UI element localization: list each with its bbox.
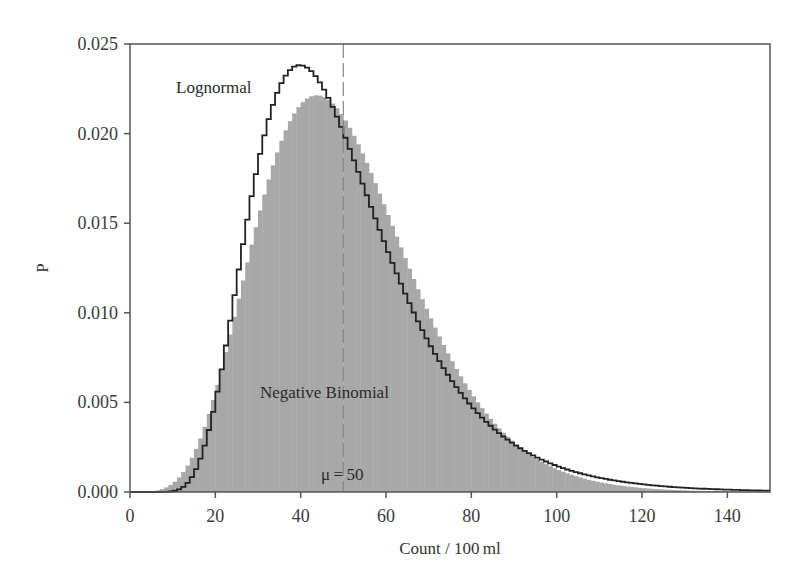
histogram-bar (360, 153, 365, 492)
histogram-bar (505, 437, 510, 492)
x-axis-ticks: 020406080100120140 (126, 492, 741, 526)
histogram-bar (224, 352, 229, 492)
histogram-bar (501, 433, 506, 492)
histogram-bar (275, 152, 280, 492)
histogram-bar (621, 486, 626, 492)
x-tick-label: 40 (292, 506, 310, 526)
histogram-bar (599, 483, 604, 492)
histogram-bar (518, 448, 523, 492)
histogram-bar (629, 487, 634, 492)
histogram-bar (267, 179, 272, 492)
histogram-bar (612, 485, 617, 492)
histogram-bar (254, 227, 259, 492)
histogram-bar (228, 335, 233, 492)
histogram-bar (343, 120, 348, 492)
histogram-bar (258, 210, 263, 492)
histogram-bar (365, 163, 370, 492)
x-tick-label: 60 (377, 506, 395, 526)
histogram-bar (232, 317, 237, 492)
histogram-bar (535, 459, 540, 492)
histogram-bar (322, 97, 327, 492)
histogram-bar (578, 477, 583, 492)
histogram-bar (608, 484, 613, 492)
mu-label: μ = 50 (321, 465, 364, 484)
histogram-bar (369, 173, 374, 492)
x-tick-label: 80 (462, 506, 480, 526)
histogram-bar (582, 479, 587, 492)
histogram-bar (262, 194, 267, 492)
histogram-bar (249, 245, 254, 492)
histogram-bar (313, 95, 318, 492)
histogram-bar (548, 466, 553, 492)
histogram-bar (591, 481, 596, 492)
histogram-bar (595, 482, 600, 492)
histogram-bar (531, 457, 536, 492)
histogram-bar (309, 96, 314, 492)
histogram-bar (574, 476, 579, 492)
histogram-bar (523, 451, 528, 492)
histogram-bar (245, 262, 250, 492)
histogram-bar (237, 299, 242, 492)
x-axis-title: Count / 100 ml (399, 539, 501, 558)
histogram-bar (271, 165, 276, 492)
histogram-bar (335, 108, 340, 492)
negative-binomial-label: Negative Binomial (260, 383, 389, 402)
y-axis-ticks: 0.0000.0050.0100.0150.0200.025 (78, 34, 131, 502)
histogram-bar (604, 483, 609, 492)
histogram-bar (305, 99, 310, 492)
histogram-bar (301, 102, 306, 492)
histogram-bar (279, 141, 284, 492)
histogram-bar (510, 441, 515, 492)
y-tick-label: 0.010 (78, 303, 119, 323)
histogram-bar (544, 464, 549, 492)
histogram-bar (296, 107, 301, 492)
histogram-bar (552, 468, 557, 492)
histogram-bar (561, 472, 566, 492)
histogram-bar (616, 485, 621, 492)
y-axis-title: P (33, 263, 52, 272)
y-tick-label: 0.000 (78, 482, 119, 502)
histogram-bar (292, 113, 297, 492)
histogram-bar (352, 136, 357, 492)
distribution-chart: 020406080100120140 0.0000.0050.0100.0150… (0, 0, 806, 586)
x-tick-label: 0 (126, 506, 135, 526)
histogram-bar (241, 280, 246, 492)
histogram-bar (514, 444, 519, 492)
histogram-bar (356, 144, 361, 492)
y-tick-label: 0.015 (78, 213, 119, 233)
histogram-bar (284, 130, 289, 492)
histogram-bar (288, 121, 293, 492)
histogram-bar (625, 486, 630, 492)
histogram-bar (326, 100, 331, 492)
histogram-bar (557, 470, 562, 492)
histogram-bar (569, 475, 574, 492)
negative-binomial-histogram (130, 95, 770, 492)
histogram-bar (527, 454, 532, 492)
y-tick-label: 0.005 (78, 392, 119, 412)
y-tick-label: 0.025 (78, 34, 119, 54)
lognormal-label: Lognormal (176, 78, 252, 97)
x-tick-label: 140 (714, 506, 741, 526)
histogram-bar (540, 462, 545, 492)
histogram-bar (318, 96, 323, 492)
y-tick-label: 0.020 (78, 124, 119, 144)
x-tick-label: 100 (543, 506, 570, 526)
x-tick-label: 120 (629, 506, 656, 526)
histogram-bar (565, 473, 570, 492)
histogram-bar (587, 480, 592, 492)
x-tick-label: 20 (206, 506, 224, 526)
histogram-bar (348, 128, 353, 492)
histogram-bar (497, 428, 502, 492)
histogram-bar (331, 104, 336, 492)
